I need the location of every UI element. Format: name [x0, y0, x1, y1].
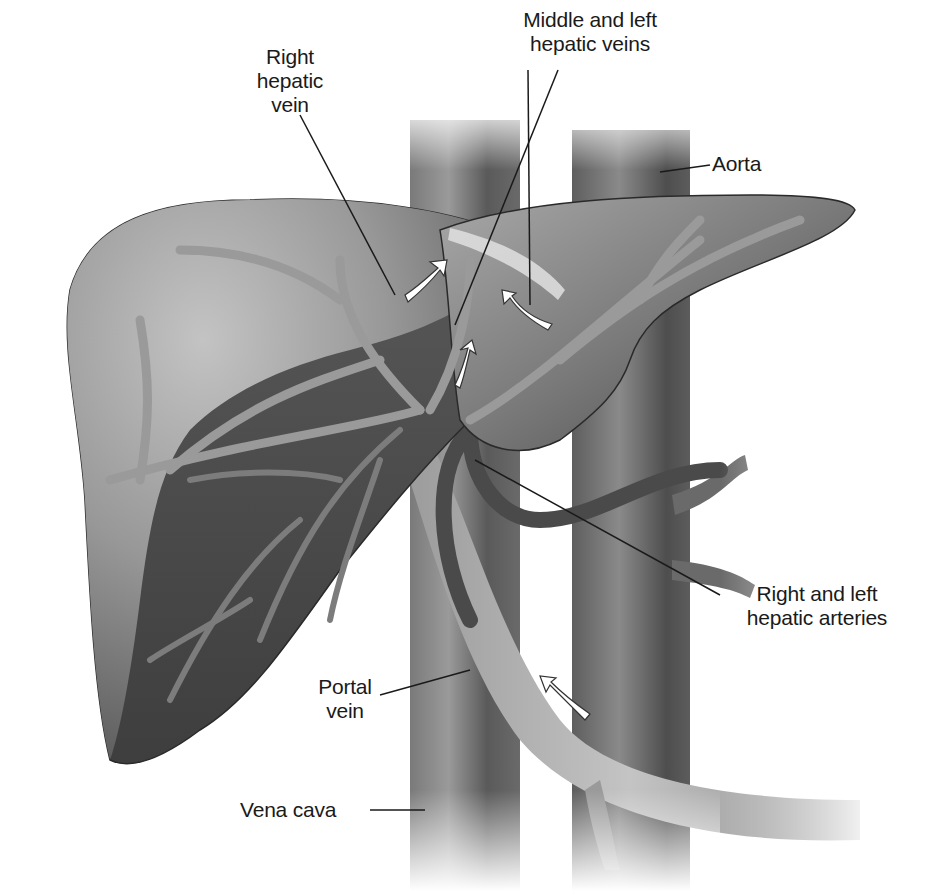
liver-illustration	[0, 0, 933, 891]
label-portal-vein: Portal vein	[300, 675, 390, 723]
label-aorta: Aorta	[712, 152, 812, 176]
label-vena-cava: Vena cava	[240, 798, 370, 822]
liver-anatomy-diagram: Right hepatic vein Middle and left hepat…	[0, 0, 933, 891]
label-right-left-hepatic-arteries: Right and left hepatic arteries	[712, 582, 922, 630]
label-right-hepatic-vein: Right hepatic vein	[230, 45, 350, 117]
label-middle-left-hepatic-veins: Middle and left hepatic veins	[490, 8, 690, 56]
